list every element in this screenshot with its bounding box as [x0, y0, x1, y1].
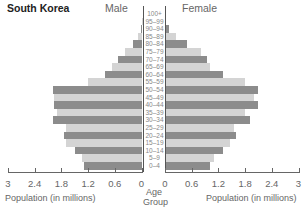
right-tick: [192, 168, 193, 173]
male-bar: [57, 109, 142, 117]
female-bar: [165, 154, 214, 162]
female-bar: [165, 56, 207, 64]
male-bar: [53, 86, 142, 94]
age-group-label: 40–44: [141, 101, 168, 109]
male-bar: [84, 162, 142, 170]
male-bar: [75, 147, 142, 155]
left-tick-label: 1.2: [81, 178, 94, 189]
right-axis-title: Population (in millions): [206, 193, 297, 203]
age-group-title: Age Group: [143, 187, 165, 207]
right-tick-label: 3: [296, 178, 301, 189]
male-bar: [125, 48, 142, 56]
age-group-label: 0–4: [141, 162, 168, 170]
female-bar: [165, 71, 223, 79]
male-label: Male: [105, 2, 128, 14]
female-bar: [165, 109, 245, 117]
age-group-label: 85–89: [141, 33, 168, 41]
right-tick-label: 0.6: [185, 178, 198, 189]
female-bar: [165, 78, 245, 86]
left-tick-label: 0.6: [108, 178, 121, 189]
female-bar: [165, 48, 201, 56]
age-group-label: 55–59: [141, 78, 168, 86]
male-bar: [54, 101, 142, 109]
left-tick-label: 3: [5, 178, 10, 189]
left-tick: [35, 168, 36, 173]
male-bar: [66, 139, 142, 147]
left-tick: [88, 168, 89, 173]
left-axis-title: Population (in millions): [5, 193, 96, 203]
right-tick: [299, 168, 300, 173]
female-bar: [165, 94, 254, 102]
age-group-label: 20–24: [141, 132, 168, 140]
left-x-axis: [8, 172, 142, 173]
age-group-label: 25–29: [141, 124, 168, 132]
age-group-label: 35–39: [141, 109, 168, 117]
left-tick-label: 2.4: [28, 178, 41, 189]
left-tick: [8, 168, 9, 173]
female-bar: [165, 101, 258, 109]
age-group-label: 45–49: [141, 94, 168, 102]
age-group-label: 65–69: [141, 63, 168, 71]
age-group-label: 80–84: [141, 40, 168, 48]
right-tick: [218, 168, 219, 173]
male-bar: [112, 63, 142, 71]
left-tick-label: 1.8: [55, 178, 68, 189]
male-bar: [64, 132, 142, 140]
female-bar: [165, 63, 210, 71]
female-bar: [165, 162, 210, 170]
female-label: Female: [182, 2, 217, 14]
male-bar: [88, 78, 142, 86]
left-tick: [115, 168, 116, 173]
male-bar: [54, 94, 142, 102]
male-bar: [66, 124, 142, 132]
age-group-label: 90–94: [141, 25, 168, 33]
age-group-label: 95–99: [141, 18, 168, 26]
female-bar: [165, 124, 234, 132]
right-tick: [272, 168, 273, 173]
female-bar: [165, 132, 236, 140]
right-tick-label: 2.4: [265, 178, 278, 189]
right-tick-label: 1.2: [212, 178, 225, 189]
age-group-label: 70–74: [141, 56, 168, 64]
left-tick: [142, 168, 143, 173]
age-group-label: 5–9: [141, 154, 168, 162]
right-tick: [245, 168, 246, 173]
female-bar: [165, 40, 187, 48]
left-tick: [61, 168, 62, 173]
age-group-label: 75–79: [141, 48, 168, 56]
right-tick: [165, 168, 166, 173]
male-bar: [53, 116, 142, 124]
male-bar: [118, 56, 142, 64]
male-bar: [82, 154, 142, 162]
age-group-label: 15–19: [141, 139, 168, 147]
female-bar: [165, 139, 230, 147]
age-title-line1: Age: [146, 187, 162, 197]
age-group-label: 10–14: [141, 147, 168, 155]
right-x-axis: [165, 172, 300, 173]
female-bar: [165, 147, 223, 155]
chart-title: South Korea: [7, 2, 69, 14]
female-bar: [165, 86, 258, 94]
age-group-label: 50–54: [141, 86, 168, 94]
population-pyramid: South Korea Male Female 100+95–9990–9485…: [0, 0, 305, 212]
age-group-label: 30–34: [141, 116, 168, 124]
male-bar: [105, 71, 142, 79]
age-group-label: 60–64: [141, 71, 168, 79]
age-title-line2: Group: [143, 197, 168, 207]
age-group-label: 100+: [141, 10, 168, 18]
female-bar: [165, 116, 250, 124]
right-tick-label: 1.8: [238, 178, 251, 189]
